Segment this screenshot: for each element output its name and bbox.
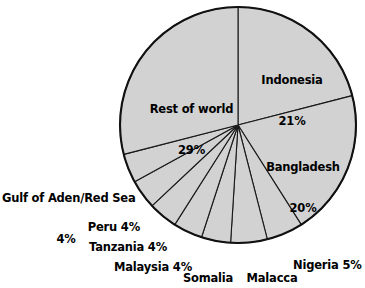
pie-chart: Indonesia 21% Bangladesh 20% Rest of wor… bbox=[0, 0, 365, 288]
slice-label-indonesia-name: Indonesia bbox=[246, 74, 338, 88]
slice-label-somalia: Somalia 4% bbox=[178, 245, 238, 288]
slice-label-rest-of-world: Rest of world 29% bbox=[139, 76, 244, 184]
slice-label-malaysia: Malaysia 4% bbox=[60, 234, 192, 288]
slice-label-malaysia-text: Malaysia 4% bbox=[60, 261, 192, 275]
slice-label-bangladesh-pct: 20% bbox=[255, 202, 351, 216]
slice-label-somalia-name: Somalia bbox=[178, 272, 238, 286]
slice-label-rest-of-world-name: Rest of world bbox=[139, 103, 244, 117]
slice-label-nigeria: Nigeria 5% bbox=[293, 232, 365, 288]
slice-label-indonesia-pct: 21% bbox=[246, 115, 338, 129]
slice-label-rest-of-world-pct: 29% bbox=[139, 144, 244, 158]
slice-label-bangladesh-name: Bangladesh bbox=[255, 161, 351, 175]
slice-label-nigeria-text: Nigeria 5% bbox=[293, 259, 365, 273]
slice-label-bangladesh: Bangladesh 20% bbox=[255, 134, 351, 242]
